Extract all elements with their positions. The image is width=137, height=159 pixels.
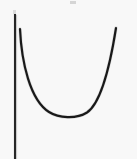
paper-grain-wash [0, 0, 137, 159]
figure-canvas [0, 0, 137, 159]
scan-speck-left-icon [13, 10, 16, 14]
scan-speck-top-icon [70, 1, 76, 4]
figure-container [0, 0, 137, 159]
